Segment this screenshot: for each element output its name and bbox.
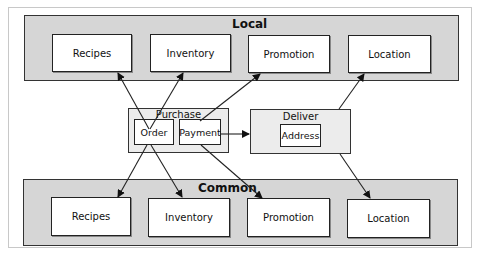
common-panel-title: Common <box>198 181 257 195</box>
local-recipes-box: Recipes <box>52 34 132 72</box>
payment-box: Payment <box>179 119 221 145</box>
common-recipes-box: Recipes <box>51 197 131 236</box>
local-inventory-box: Inventory <box>150 34 231 72</box>
address-box: Address <box>280 124 321 147</box>
local-location-box: Location <box>348 35 431 73</box>
common-inventory-box: Inventory <box>148 198 230 237</box>
common-promotion-box: Promotion <box>247 198 330 237</box>
order-box: Order <box>134 119 174 145</box>
local-panel-title: Local <box>232 17 267 31</box>
local-promotion-box: Promotion <box>248 35 330 73</box>
deliver-title: Deliver <box>251 111 350 122</box>
common-location-box: Location <box>347 199 430 238</box>
